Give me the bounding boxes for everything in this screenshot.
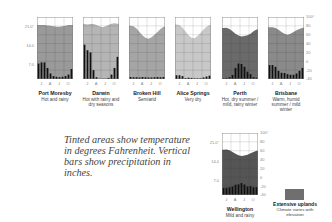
precip-bar xyxy=(93,70,95,79)
right-axis-tick: 60 xyxy=(260,149,276,153)
precip-bar xyxy=(235,185,237,195)
x-tick: A xyxy=(141,81,144,86)
x-tick: O xyxy=(298,81,301,86)
precip-bar xyxy=(238,64,240,80)
x-tick: J xyxy=(86,81,88,86)
x-tick: J xyxy=(243,81,245,86)
chart-perth xyxy=(222,17,258,79)
climograph-svg xyxy=(175,17,211,79)
right-axis-tick: -40 xyxy=(260,193,276,197)
x-tick: J xyxy=(58,81,60,86)
x-tick: J xyxy=(178,81,180,86)
precip-bar xyxy=(284,73,286,79)
x-tick: A xyxy=(234,197,237,202)
right-axis-tick: 80 xyxy=(260,140,276,144)
right-axis-tick: 100° xyxy=(306,15,322,19)
city-desc-broken-hill: Semiarid xyxy=(124,97,170,102)
x-tick: A xyxy=(234,81,237,86)
precip-bar xyxy=(38,64,40,80)
x-tick: O xyxy=(159,81,162,86)
city-desc-perth: Hot, dry summer / mild, rainy winter xyxy=(217,97,263,107)
precip-bar xyxy=(47,68,49,79)
precip-bar xyxy=(176,75,178,79)
precip-bar xyxy=(41,62,43,79)
x-axis-labels: JAJO xyxy=(129,81,165,86)
left-axis-tick: 21.0" xyxy=(203,141,219,145)
x-axis-labels: JAJO xyxy=(268,81,304,86)
right-axis-tick: 0 xyxy=(306,60,322,64)
right-axis-tick: 60 xyxy=(306,33,322,37)
precip-bar xyxy=(111,75,113,79)
x-axis-labels: JAJO xyxy=(37,81,73,86)
right-axis-tick: -20 xyxy=(260,185,276,189)
precip-bar xyxy=(229,187,231,195)
x-tick: J xyxy=(225,197,227,202)
left-axis-tick: 14.0 xyxy=(203,160,219,164)
x-tick: O xyxy=(252,197,255,202)
precip-bar xyxy=(293,75,295,79)
chart-darwin xyxy=(83,17,119,79)
precip-bar xyxy=(287,74,289,79)
right-axis-tick: -40 xyxy=(306,77,322,81)
x-tick: O xyxy=(67,81,70,86)
right-axis-tick: -20 xyxy=(306,69,322,73)
precip-bar xyxy=(44,62,46,79)
precip-bar xyxy=(50,73,52,79)
precip-bar xyxy=(65,76,67,79)
x-tick: J xyxy=(196,81,198,86)
precip-bar xyxy=(275,67,277,79)
chart-wellington xyxy=(222,133,258,195)
x-axis-labels: JAJO xyxy=(222,197,258,202)
precip-bar xyxy=(209,76,211,79)
city-desc-wellington: Mild and rainy xyxy=(217,213,263,218)
precip-bar xyxy=(241,64,243,79)
climograph-svg xyxy=(222,17,258,79)
left-axis-tick: 7.0 xyxy=(203,179,219,183)
x-tick: J xyxy=(104,81,106,86)
precip-bar xyxy=(238,184,240,195)
precip-bar xyxy=(250,186,252,195)
right-axis-tick: 100° xyxy=(260,131,276,135)
x-tick: J xyxy=(289,81,291,86)
precip-bar xyxy=(182,76,184,79)
precip-bar xyxy=(90,52,92,79)
chart-broken-hill xyxy=(129,17,165,79)
right-axis-tick: 20 xyxy=(306,51,322,55)
x-tick: A xyxy=(49,81,52,86)
x-tick: O xyxy=(205,81,208,86)
chart-port-moresby xyxy=(37,17,73,79)
climograph-svg xyxy=(37,17,73,79)
precip-bar xyxy=(71,69,73,79)
precip-bar xyxy=(232,187,234,195)
precip-bar xyxy=(256,187,258,195)
precip-bar xyxy=(250,74,252,79)
precip-bar xyxy=(290,75,292,79)
precip-bar xyxy=(269,65,271,79)
x-tick: J xyxy=(225,81,227,86)
city-name-wellington: Wellington xyxy=(217,206,263,212)
x-tick: O xyxy=(113,81,116,86)
x-tick: A xyxy=(187,81,190,86)
precip-bar xyxy=(241,183,243,195)
city-name-darwin: Darwin xyxy=(78,90,124,96)
right-axis-tick: 80 xyxy=(306,24,322,28)
climograph-svg xyxy=(129,17,165,79)
right-axis-tick: 0 xyxy=(260,176,276,180)
right-axis-tick: 40 xyxy=(306,42,322,46)
precip-bar xyxy=(247,187,249,195)
left-axis-tick: 14.0 xyxy=(18,44,34,48)
precip-bar xyxy=(114,68,116,79)
city-desc-brisbane: Warm, humid summer / mild winter xyxy=(265,97,307,113)
precip-bar xyxy=(117,57,119,79)
precip-bar xyxy=(68,75,70,79)
precip-bar xyxy=(296,73,298,79)
right-axis-tick: 40 xyxy=(260,158,276,162)
climograph-svg xyxy=(222,133,258,195)
precip-bar xyxy=(302,68,304,79)
precip-bar xyxy=(244,67,246,79)
x-axis-labels: JAJO xyxy=(222,81,258,86)
x-axis-labels: JAJO xyxy=(83,81,119,86)
legend-desc: Climate varies with elevation xyxy=(268,207,322,217)
city-name-port-moresby: Port Moresby xyxy=(32,90,78,96)
x-tick: J xyxy=(40,81,42,86)
